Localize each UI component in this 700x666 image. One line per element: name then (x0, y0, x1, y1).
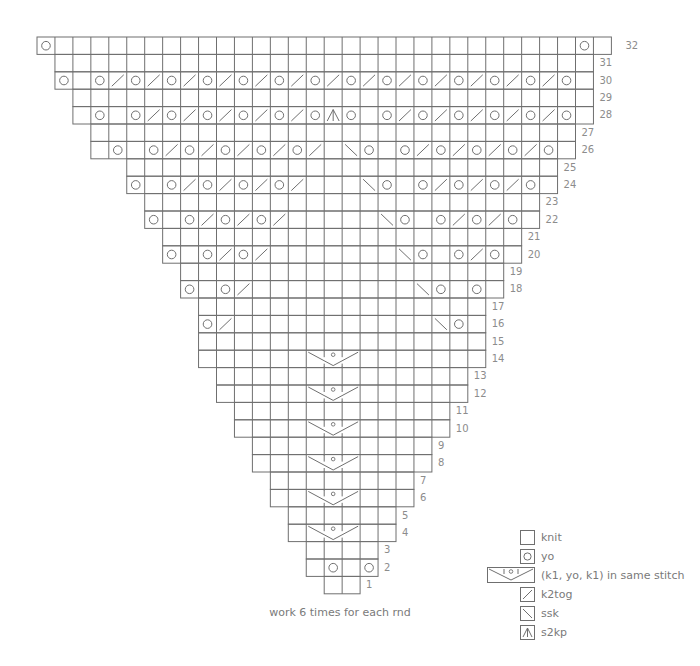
row-number-label: 26 (582, 144, 595, 156)
yo-icon (221, 146, 230, 155)
yo-icon (96, 76, 105, 85)
yo-icon (60, 76, 69, 85)
yo-icon (185, 285, 194, 294)
yo-icon (520, 549, 535, 564)
yo-icon (401, 146, 410, 155)
yo-icon (562, 111, 571, 120)
row-number-label: 24 (564, 179, 577, 191)
k1-yo-k1-icon (487, 567, 535, 583)
yo-icon (203, 181, 212, 190)
yo-icon (365, 563, 374, 572)
yo-icon (437, 215, 446, 224)
yo-icon (185, 146, 194, 155)
k2tog-icon (184, 75, 196, 86)
k2tog-icon (255, 179, 267, 190)
yo-icon (419, 181, 428, 190)
row-number-label: 17 (492, 301, 505, 313)
k2tog-icon (471, 249, 483, 260)
yo-icon (472, 215, 481, 224)
yo-icon (239, 76, 248, 85)
k2tog-icon (399, 75, 411, 86)
k2tog-icon (327, 75, 339, 86)
yo-icon (365, 146, 374, 155)
chart-row-29 (73, 89, 594, 106)
row-number-label: 8 (438, 457, 444, 469)
row-number-label: 12 (474, 388, 487, 400)
k2tog-icon (112, 75, 124, 86)
yo-icon (203, 76, 212, 85)
yo-icon (149, 215, 158, 224)
k2tog-icon (184, 110, 196, 121)
s2kp-icon (520, 625, 535, 640)
legend-label: (k1, yo, k1) in same stitch (541, 569, 684, 583)
k2tog-icon (255, 75, 267, 86)
grid-lines (0, 0, 700, 666)
row-number-label: 14 (492, 353, 505, 365)
yo-icon (221, 215, 230, 224)
k2tog-icon (184, 179, 196, 190)
yo-icon (275, 76, 284, 85)
k2tog-icon (453, 214, 465, 225)
k2tog-icon (148, 75, 160, 86)
row-number-label: 6 (420, 492, 426, 504)
k2tog-icon (543, 110, 555, 121)
knitting-chart: 3231302928272625242322212019181716151413… (0, 0, 700, 666)
yo-icon (329, 563, 338, 572)
ssk-icon (345, 144, 357, 155)
k2tog-icon (220, 179, 232, 190)
ssk-icon (363, 179, 375, 190)
yo-icon (293, 146, 302, 155)
yo-icon (239, 181, 248, 190)
row-number-label: 10 (456, 423, 469, 435)
yo-icon (437, 285, 446, 294)
yo-icon (383, 76, 392, 85)
k2tog-icon (220, 75, 232, 86)
k2tog-icon (471, 110, 483, 121)
yo-icon (239, 111, 248, 120)
yo-icon (508, 215, 517, 224)
row-number-label: 15 (492, 336, 505, 348)
k2tog-icon (291, 179, 303, 190)
k2tog-icon (202, 214, 214, 225)
legend-label: knit (541, 531, 562, 545)
k2tog-icon (543, 75, 555, 86)
row-number-label: 19 (510, 266, 523, 278)
yo-icon (96, 111, 105, 120)
yo-icon (347, 76, 356, 85)
row-number-label: 20 (528, 249, 541, 261)
yo-icon (562, 76, 571, 85)
yo-icon (544, 146, 553, 155)
yo-icon (419, 76, 428, 85)
yo-icon (275, 111, 284, 120)
k2tog-icon (273, 144, 285, 155)
row-number-label: 9 (438, 440, 444, 452)
k2tog-icon (471, 75, 483, 86)
row-number-label: 13 (474, 370, 487, 382)
yo-icon (472, 285, 481, 294)
yo-icon (490, 250, 499, 259)
k2tog-icon (255, 110, 267, 121)
k2tog-icon (166, 144, 178, 155)
k2tog-icon (471, 179, 483, 190)
yo-icon (131, 181, 140, 190)
yo-icon (203, 320, 212, 329)
row-number-label: 31 (599, 57, 612, 69)
yo-icon (437, 146, 446, 155)
yo-icon (311, 76, 320, 85)
k2tog-icon (525, 144, 537, 155)
yo-icon (131, 111, 140, 120)
yo-icon (401, 215, 410, 224)
row-number-label: 16 (492, 318, 505, 330)
k2tog-icon (435, 110, 447, 121)
yo-icon (257, 215, 266, 224)
k2tog-icon (399, 110, 411, 121)
row-number-label: 30 (599, 75, 612, 87)
k2tog-icon (520, 587, 535, 602)
yo-icon (419, 111, 428, 120)
legend-label: yo (541, 550, 554, 564)
yo-icon (167, 111, 176, 120)
yo-icon (185, 215, 194, 224)
k2tog-icon (273, 214, 285, 225)
k2tog-icon (309, 144, 321, 155)
yo-icon (167, 250, 176, 259)
